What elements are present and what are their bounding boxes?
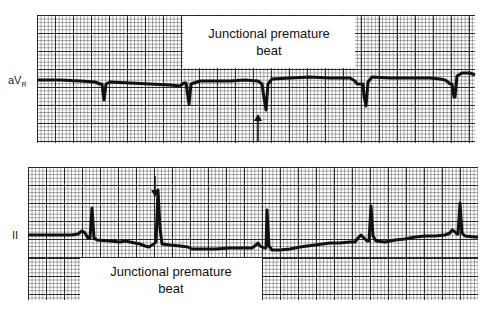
- arrow-up-icon: [254, 114, 262, 142]
- ecg-trace-ii: [28, 190, 478, 250]
- ecg-trace-avr: [37, 73, 475, 110]
- ecg-traces: [0, 0, 490, 312]
